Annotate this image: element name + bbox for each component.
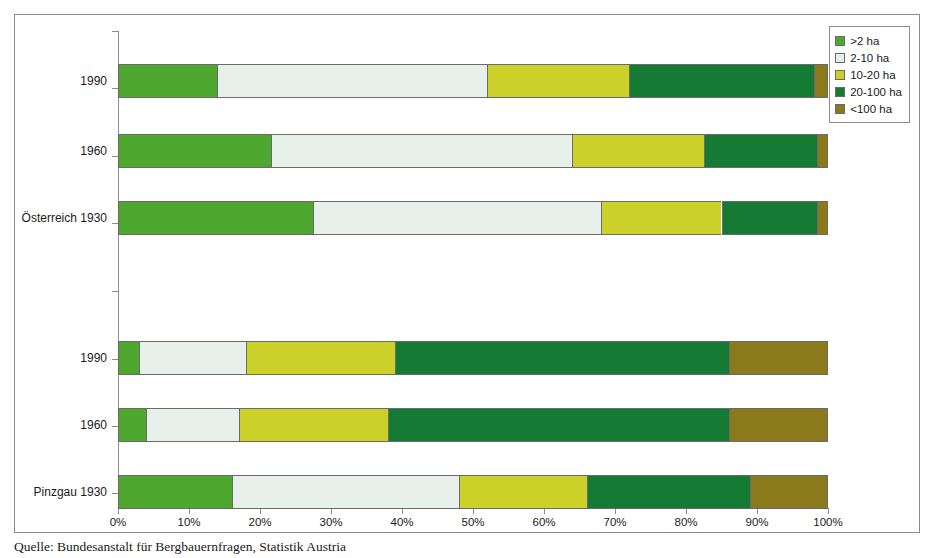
legend-items: >2 ha2-10 ha10-20 ha20-100 ha<100 ha: [835, 32, 902, 117]
stacked-bar: [118, 134, 828, 168]
bar-segment: [814, 64, 828, 98]
x-axis-tick-label: 80%: [674, 516, 697, 528]
bar-segment: [750, 475, 828, 509]
legend-swatch-icon: [835, 53, 845, 63]
x-axis-tick-label: 100%: [813, 516, 842, 528]
x-axis-tick-label: 90%: [745, 516, 768, 528]
y-axis-category-label: 1990: [15, 351, 107, 365]
bar-segment: [118, 341, 139, 375]
bar-segment: [572, 134, 703, 168]
x-axis-tick-label: 10%: [177, 516, 200, 528]
bar-segment: [118, 201, 313, 235]
stacked-bar: [118, 201, 828, 235]
legend-item: 10-20 ha: [835, 66, 902, 83]
bar-segment: [704, 134, 818, 168]
bar-segment: [313, 201, 601, 235]
bar-segment: [817, 201, 828, 235]
legend-swatch-icon: [835, 104, 845, 114]
bar-segment: [722, 201, 818, 235]
bar-segment: [118, 475, 232, 509]
y-axis-category-label: Österreich 1930: [15, 211, 107, 225]
bar-segment: [217, 64, 487, 98]
bar-segment: [629, 64, 814, 98]
stacked-bar: [118, 408, 828, 442]
stacked-bar: [118, 475, 828, 509]
y-axis-category-label: 1990: [15, 74, 107, 88]
legend-label: >2 ha: [850, 35, 879, 47]
x-axis-tick-label: 40%: [390, 516, 413, 528]
x-axis-tick-label: 70%: [603, 516, 626, 528]
x-axis-tick-label: 30%: [319, 516, 342, 528]
x-axis-tick-label: 60%: [532, 516, 555, 528]
x-axis-tick-label: 20%: [248, 516, 271, 528]
bar-segment: [118, 64, 217, 98]
bar-segment: [459, 475, 587, 509]
bar-segment: [729, 341, 828, 375]
x-axis-tick-label: 0%: [110, 516, 127, 528]
legend-swatch-icon: [835, 70, 845, 80]
bar-segment: [271, 134, 573, 168]
bar-segment: [817, 134, 828, 168]
chart-frame: 0%10%20%30%40%50%60%70%80%90%100% 199019…: [14, 14, 920, 533]
legend-label: 20-100 ha: [850, 86, 902, 98]
bar-segment: [601, 201, 722, 235]
bar-segment: [729, 408, 828, 442]
stacked-bar: [118, 64, 828, 98]
bar-segment: [587, 475, 750, 509]
legend-item: 20-100 ha: [835, 83, 902, 100]
legend-label: 2-10 ha: [850, 52, 889, 64]
y-axis-category-label: 1960: [15, 144, 107, 158]
figure-caption: Quelle: Bundesanstalt für Bergbauernfrag…: [14, 537, 920, 558]
y-axis-category-label: 1960: [15, 418, 107, 432]
legend-swatch-icon: [835, 36, 845, 46]
bar-segment: [487, 64, 629, 98]
bar-segment: [239, 408, 388, 442]
legend-label: 10-20 ha: [850, 69, 895, 81]
bar-segment: [139, 341, 246, 375]
bar-segment: [388, 408, 729, 442]
legend-label: <100 ha: [850, 103, 892, 115]
legend-item: >2 ha: [835, 32, 902, 49]
plot-area: [118, 31, 828, 508]
scan-artifact-strip: [0, 0, 934, 13]
bar-segment: [232, 475, 459, 509]
x-axis-tick-label: 50%: [461, 516, 484, 528]
legend-item: 2-10 ha: [835, 49, 902, 66]
y-axis-category-label: Pinzgau 1930: [15, 485, 107, 499]
bar-segment: [118, 408, 146, 442]
bar-segment: [118, 134, 271, 168]
stacked-bar: [118, 341, 828, 375]
x-axis-tick: [828, 508, 829, 514]
legend-swatch-icon: [835, 87, 845, 97]
bar-segment: [146, 408, 238, 442]
chart-legend: >2 ha2-10 ha10-20 ha20-100 ha<100 ha: [829, 26, 910, 123]
bar-segment: [395, 341, 729, 375]
legend-item: <100 ha: [835, 100, 902, 117]
figure-root: 0%10%20%30%40%50%60%70%80%90%100% 199019…: [0, 0, 934, 558]
bar-segment: [246, 341, 395, 375]
